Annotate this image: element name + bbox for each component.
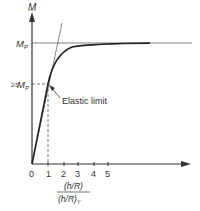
pointer-arrow-icon [49, 85, 55, 91]
x-tick-5: 5 [105, 169, 110, 179]
moment-curvature-diagram: M MP 2/3 MP Elastic limit 0 1 2 3 4 5 (h… [0, 0, 200, 211]
y-axis-label: M [28, 2, 37, 13]
x-tick-2: 2 [61, 169, 66, 179]
x-tick-0: 0 [29, 169, 34, 179]
x-tick-3: 3 [75, 169, 80, 179]
elastic-segment [32, 84, 48, 164]
x-tick-4: 4 [91, 169, 96, 179]
mp-label: MP [16, 38, 28, 50]
two-thirds-mp-label: MP [17, 79, 29, 91]
y-axis-arrow-icon [29, 12, 35, 22]
x-label-denominator: (h/R)Y [58, 194, 81, 205]
elastic-limit-label: Elastic limit [62, 96, 108, 106]
x-tick-1: 1 [46, 169, 51, 179]
x-label-numerator: (h/R) [64, 181, 83, 191]
x-axis-arrow-icon [181, 161, 191, 167]
moment-curve [48, 43, 150, 84]
